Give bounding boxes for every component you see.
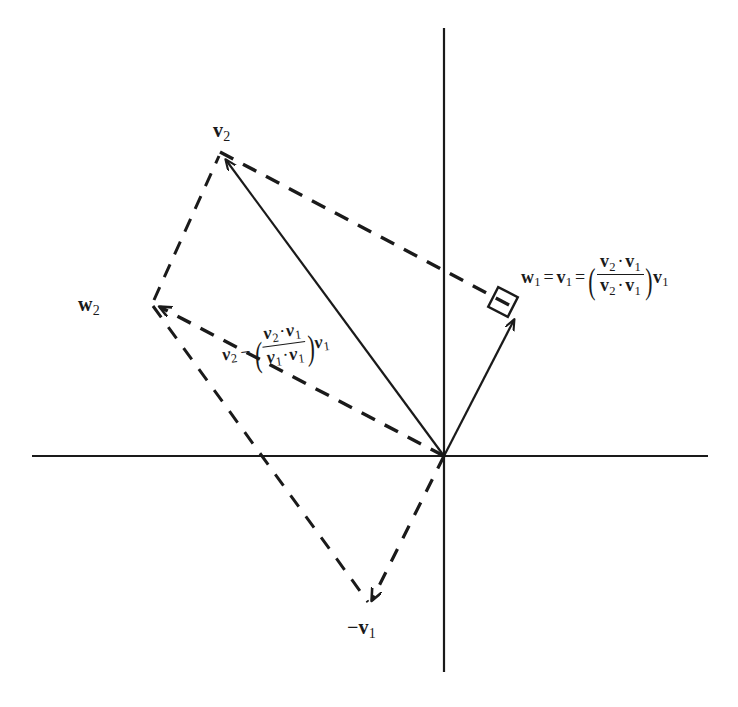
label-neg-v1-sub: 1: [368, 626, 375, 641]
w1-num-dot: ·: [616, 251, 626, 271]
w1-paren-close: ): [645, 264, 652, 299]
label-v2: v2: [213, 120, 230, 144]
w1-num-a-sub: 2: [609, 260, 616, 274]
w1-den-b-base: v: [625, 275, 634, 295]
label-v2-sub: 2: [223, 129, 230, 144]
w1-num-b-base: v: [625, 251, 634, 271]
proj-fraction: v2·v1v1·v1: [259, 319, 308, 370]
w1-den-b-sub: 1: [634, 284, 641, 298]
diagram-canvas: [0, 0, 738, 707]
label-neg-v1-base: −v: [347, 616, 368, 638]
w1-num-b-sub: 1: [634, 260, 641, 274]
label-w2-sub: 2: [92, 303, 99, 318]
w1-lhs-base: w: [521, 267, 534, 287]
w1-tail-base: v: [653, 267, 662, 287]
label-w2: w2: [78, 294, 100, 318]
label-w2-base: w: [78, 293, 92, 315]
w1-paren-open: (: [588, 264, 595, 299]
w1-numerator: v2·v1: [597, 252, 644, 275]
w1-fraction: v2·v1v2·v1: [597, 252, 644, 297]
proj-den-b-sub: 1: [297, 351, 305, 366]
label-w1-formula: w1=v1=(v2·v1v2·v1)v1: [521, 252, 668, 299]
dashed-line-v2-to-w1: [220, 152, 513, 307]
vector-v2: [226, 160, 444, 456]
proj-minus: −: [235, 341, 255, 363]
vector-diagram: v2 w2 −v1 w1=v1=(v2·v1v2·v1)v1 v2−(v2·v1…: [0, 0, 738, 707]
w1-tail-sub: 1: [662, 275, 669, 289]
w1-eq-2: =: [572, 267, 588, 287]
w1-den-a-sub: 2: [609, 284, 616, 298]
w1-den-a-base: v: [600, 275, 609, 295]
label-neg-v1: −v1: [347, 617, 376, 641]
w1-num-a-base: v: [600, 251, 609, 271]
proj-num-b-sub: 1: [294, 327, 302, 342]
w1-den-dot: ·: [616, 275, 626, 295]
vector-v1: [444, 320, 514, 456]
w1-eq-1: =: [541, 267, 557, 287]
w1-lhs-sub: 1: [534, 275, 541, 289]
w1-denominator: v2·v1: [597, 275, 644, 297]
proj-denominator: v1·v1: [262, 342, 308, 370]
vector-neg-v1: [372, 456, 444, 600]
dashed-line-w2-to-v2: [154, 156, 219, 300]
label-v2-base: v: [213, 119, 223, 141]
